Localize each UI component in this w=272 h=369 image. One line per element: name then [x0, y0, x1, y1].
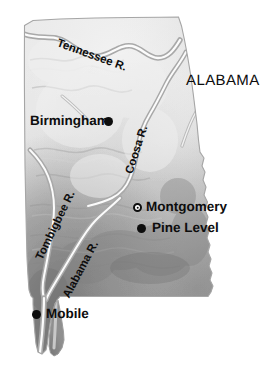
city-label-mobile: Mobile: [46, 307, 89, 321]
state-label-alabama: ALABAMA: [186, 73, 260, 88]
city-label-birmingham: Birmingham: [30, 114, 109, 128]
city-label-pine-level: Pine Level: [152, 221, 219, 235]
city-label-montgomery: Montgomery: [146, 200, 227, 214]
alabama-relief-map: ALABAMA Birmingham Montgomery Pine Level…: [0, 0, 272, 369]
city-marker-pine-level[interactable]: [137, 224, 146, 233]
city-marker-mobile[interactable]: [32, 310, 41, 319]
city-marker-montgomery[interactable]: [133, 203, 142, 212]
